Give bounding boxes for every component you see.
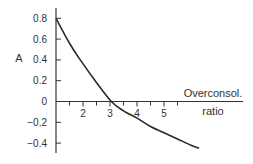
- x-tick-label: 2: [80, 108, 86, 119]
- y-tick-label: 0.6: [33, 34, 47, 45]
- x-axis-label-line1: Overconsol.: [184, 87, 243, 99]
- y-tick-label: 0.8: [33, 13, 47, 24]
- x-tick-label: 5: [161, 108, 167, 119]
- y-tick-label: −0.4: [27, 138, 47, 149]
- axes: [56, 8, 243, 153]
- y-tick-label: 0: [41, 96, 47, 107]
- y-tick-label: 0.2: [33, 75, 47, 86]
- data-curve: [56, 18, 199, 148]
- ticks: [56, 18, 178, 143]
- chart-container: 0.80.60.40.20−0.2−0.42345 A Overconsol. …: [0, 0, 253, 164]
- y-axis-label: A: [15, 52, 23, 64]
- y-tick-label: 0.4: [33, 54, 47, 65]
- y-tick-label: −0.2: [27, 117, 47, 128]
- x-tick-label: 3: [107, 108, 113, 119]
- chart-svg: 0.80.60.40.20−0.2−0.42345 A Overconsol. …: [0, 0, 253, 164]
- x-axis-label-line2: ratio: [202, 105, 223, 117]
- tick-labels: 0.80.60.40.20−0.2−0.42345: [27, 13, 167, 149]
